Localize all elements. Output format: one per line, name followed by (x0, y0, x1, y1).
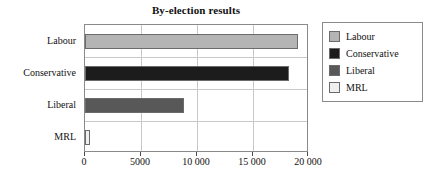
bar-series (85, 25, 307, 151)
bar-row (85, 25, 307, 57)
bar-conservative[interactable] (85, 66, 289, 81)
legend-label: Labour (346, 32, 375, 42)
legend-label: MRL (346, 83, 368, 93)
y-tick-label-mrl: MRL (54, 131, 76, 142)
x-axis-tick-labels: 0500010 00015 00020 000 (84, 156, 308, 172)
bar-row (85, 121, 307, 153)
x-tick-label: 0 (82, 156, 87, 167)
y-tick-label-labour: Labour (47, 35, 76, 46)
legend-item-conservative[interactable]: Conservative (329, 45, 417, 62)
bar-labour[interactable] (85, 34, 298, 49)
legend-swatch-icon (329, 31, 340, 42)
x-tick-label: 15 000 (238, 156, 266, 167)
legend-item-mrl[interactable]: MRL (329, 79, 417, 96)
legend-swatch-icon (329, 65, 340, 76)
legend-swatch-icon (329, 48, 340, 59)
chart-figure: By-election results 0500010 00015 00020 … (0, 0, 429, 181)
legend-label: Conservative (346, 49, 399, 59)
legend-item-labour[interactable]: Labour (329, 28, 417, 45)
x-tick-label: 10 000 (182, 156, 210, 167)
legend-label: Liberal (346, 66, 375, 76)
bar-liberal[interactable] (85, 98, 184, 113)
chart-title: By-election results (84, 4, 308, 16)
x-tick-label: 20 000 (294, 156, 322, 167)
x-tick-label: 5000 (130, 156, 150, 167)
bar-row (85, 57, 307, 89)
legend-swatch-icon (329, 82, 340, 93)
y-tick-label-conservative: Conservative (23, 67, 76, 78)
legend-item-liberal[interactable]: Liberal (329, 62, 417, 79)
y-axis-category-labels: LabourConservativeLiberalMRL (0, 24, 80, 152)
chart-legend: LabourConservativeLiberalMRL (322, 22, 423, 102)
plot-area (84, 24, 308, 152)
y-tick-label-liberal: Liberal (47, 99, 76, 110)
bar-row (85, 89, 307, 121)
bar-mrl[interactable] (85, 130, 90, 145)
